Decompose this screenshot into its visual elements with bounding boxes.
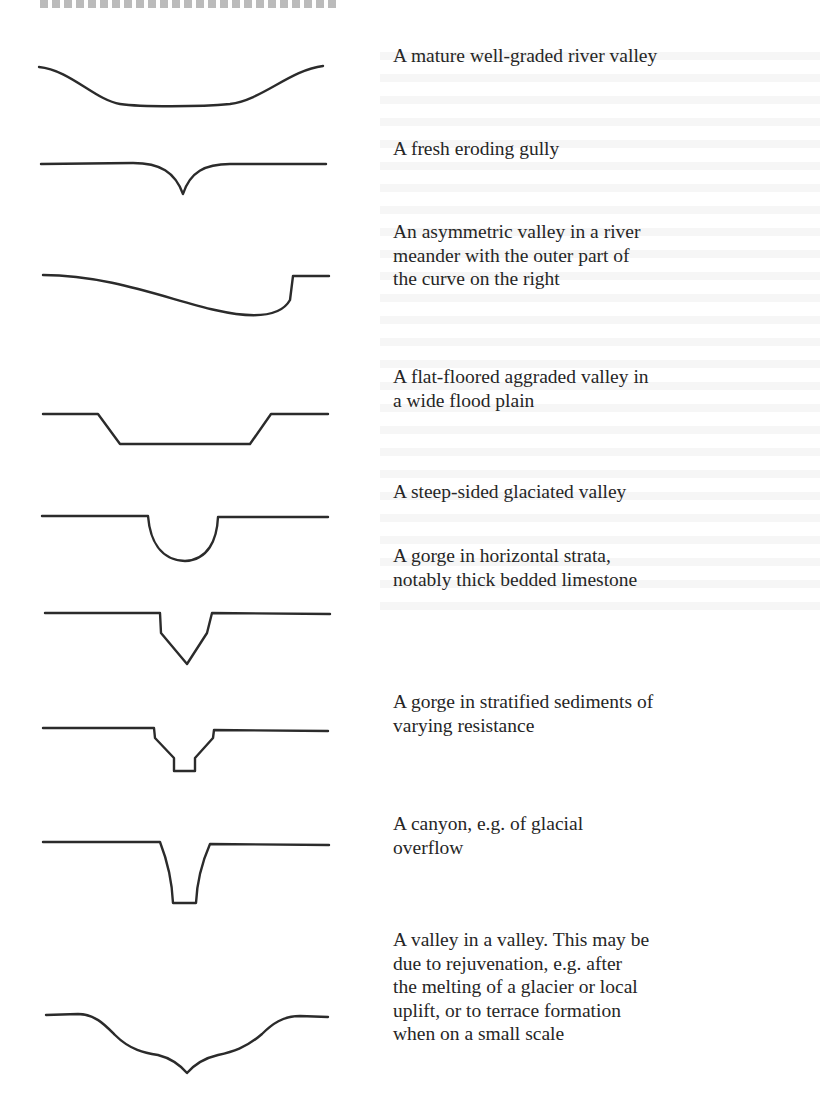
profile-steep-sided-glaciated-valley (42, 516, 328, 561)
profile-glacial-overflow-canyon (43, 842, 329, 903)
profile-gorge-horizontal-strata (45, 613, 330, 664)
profile-flat-floored-aggraded-valley (43, 414, 328, 444)
profile-asymmetric-meander-valley (43, 275, 329, 315)
profile-fresh-eroding-gully (41, 163, 326, 194)
profile-mature-river-valley (39, 66, 323, 106)
profile-gorge-stratified-sediments (43, 728, 328, 771)
caption-gorge-stratified-sediments: A gorge in stratified sediments of varyi… (393, 690, 803, 737)
caption-gorge-horizontal-strata: A gorge in horizontal strata, notably th… (393, 544, 803, 591)
caption-steep-sided-glaciated-valley: A steep-sided glaciated valley (393, 480, 803, 504)
caption-mature-river-valley: A mature well-graded river valley (393, 44, 803, 68)
caption-glacial-overflow-canyon: A canyon, e.g. of glacial overflow (393, 812, 803, 859)
profile-valley-in-a-valley (46, 1014, 328, 1073)
caption-asymmetric-meander-valley: An asymmetric valley in a river meander … (393, 220, 803, 291)
caption-valley-in-a-valley: A valley in a valley. This may be due to… (393, 928, 803, 1046)
caption-fresh-eroding-gully: A fresh eroding gully (393, 137, 803, 161)
caption-flat-floored-aggraded-valley: A flat-floored aggraded valley in a wide… (393, 365, 803, 412)
